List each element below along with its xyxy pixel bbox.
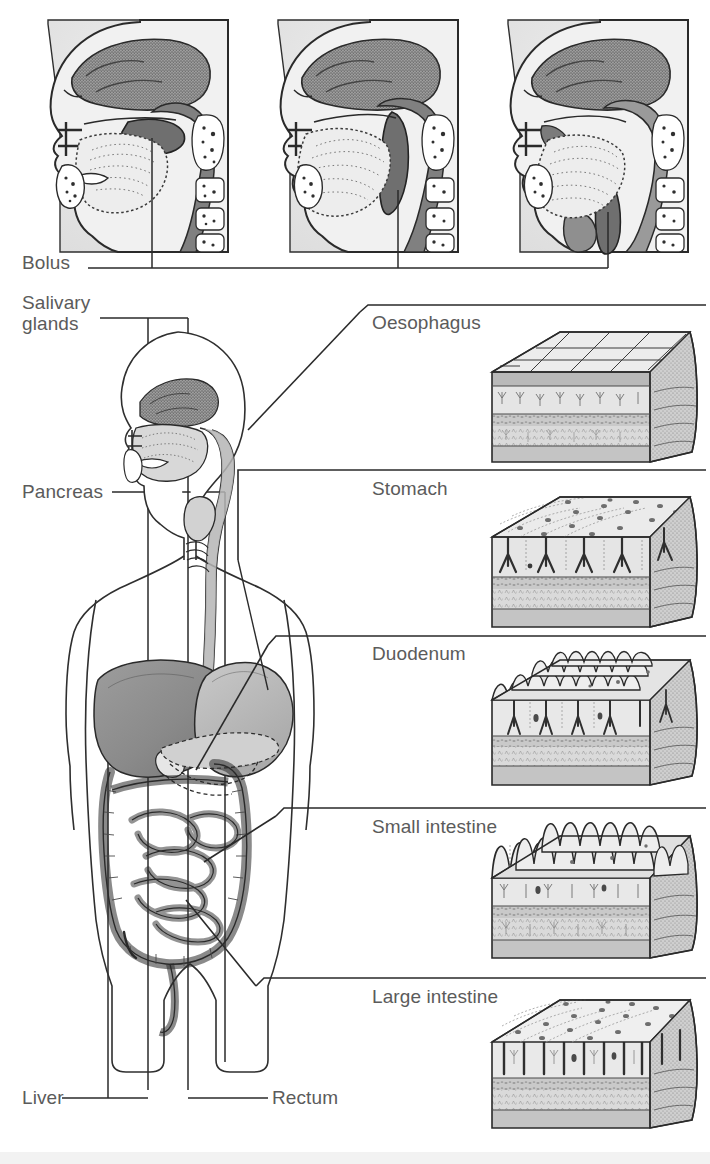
label-stomach: Stomach <box>372 478 448 500</box>
human-body-figure <box>66 330 314 1072</box>
divider-small-intestine <box>276 808 706 816</box>
salivary-gland-3 <box>524 165 552 208</box>
swallowing-panel-2 <box>278 20 458 268</box>
label-duodenum: Duodenum <box>372 643 466 665</box>
divider-oesophagus <box>360 305 706 312</box>
tissue-block-small-intestine <box>492 823 697 958</box>
label-small-intestine: Small intestine <box>372 816 497 838</box>
label-rectum: Rectum <box>272 1087 338 1109</box>
label-salivary-glands: Salivary glands <box>22 292 142 335</box>
label-bolus: Bolus <box>22 252 70 274</box>
label-pancreas: Pancreas <box>22 481 103 503</box>
swallowing-panel-1 <box>48 20 228 268</box>
swallowing-panel-3 <box>508 20 688 268</box>
trunk-right <box>284 600 295 920</box>
tissue-block-oesophagus <box>492 332 697 462</box>
label-liver: Liver <box>22 1087 64 1109</box>
divider-large-intestine <box>256 978 706 986</box>
trunk-left <box>85 600 96 920</box>
label-large-intestine: Large intestine <box>372 986 498 1008</box>
label-oesophagus: Oesophagus <box>372 312 481 334</box>
swallowing-stage-panels <box>48 20 688 268</box>
tissue-block-stomach <box>492 497 697 627</box>
duodenum-villi-top <box>512 652 652 691</box>
label-salivary-line2: glands <box>22 313 79 334</box>
body-salivary-gland <box>124 450 142 483</box>
divider-duodenum <box>268 636 706 645</box>
digestive-system-figure: Bolus Salivary glands Pancreas Liver Rec… <box>0 0 710 1164</box>
label-salivary-line1: Salivary <box>22 292 90 313</box>
salivary-gland-2 <box>294 165 322 208</box>
bottom-strip <box>0 1152 710 1164</box>
tissue-block-duodenum <box>492 652 697 786</box>
small-intestine-villi-top <box>516 823 660 870</box>
leader-small-intestine <box>204 816 276 862</box>
leader-oesophagus <box>248 312 360 430</box>
left-leg <box>96 920 164 1072</box>
figure-canvas <box>0 0 710 1164</box>
divider-stomach <box>238 470 706 478</box>
tissue-block-large-intestine <box>492 1000 697 1128</box>
